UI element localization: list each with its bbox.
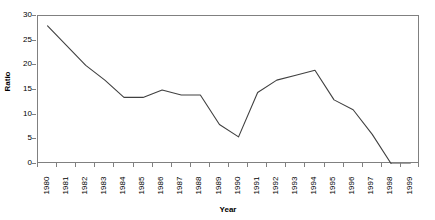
x-tick-mark [56,163,57,167]
line-chart: Ratio 051015202530 198019811982198319841… [0,0,435,220]
x-tick-mark [190,163,191,167]
x-tick-label-text: 1999 [405,177,414,195]
x-axis-title: Year [37,205,419,214]
x-tick-mark [381,163,382,167]
x-tick-mark [152,163,153,167]
y-tick-mark [32,138,36,139]
y-tick-mark [32,89,36,90]
x-tick-mark [228,163,229,167]
x-tick-mark [75,163,76,167]
series-line-ratio [48,26,411,164]
x-axis-tick-labels: 1980198119821983198419851986198719881989… [37,168,419,204]
x-tick-mark [171,163,172,167]
series-svg [38,16,420,164]
x-tick-mark [343,163,344,167]
x-tick-mark [209,163,210,167]
y-tick-mark [32,15,36,16]
y-tick-mark [32,64,36,65]
y-tick-mark [32,163,36,164]
x-tick-mark [400,163,401,167]
x-axis-tick-marks [37,163,419,167]
x-tick-mark [266,163,267,167]
x-tick-mark [37,163,38,167]
y-axis-title-label: Ratio [3,72,12,92]
y-tick-mark [32,114,36,115]
x-tick-mark [324,163,325,167]
x-tick-mark [362,163,363,167]
y-tick-mark [32,40,36,41]
x-tick-mark [94,163,95,167]
x-tick-mark [113,163,114,167]
x-tick-label: 1999 [391,168,427,204]
x-tick-mark [133,163,134,167]
plot-area [37,15,419,163]
x-tick-mark [418,163,419,167]
x-tick-mark [304,163,305,167]
x-tick-mark [247,163,248,167]
x-tick-mark [285,163,286,167]
